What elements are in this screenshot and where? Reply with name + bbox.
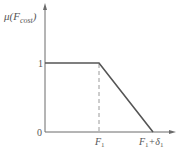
y-tick-1: 1 — [38, 58, 43, 69]
x-tick-f1-plus-delta1: F1+δ1 — [138, 136, 164, 149]
x-axis-arrow-icon — [169, 130, 176, 134]
membership-function-chart: μ(Fcost) 1 0 F1 F1+δ1 — [0, 0, 186, 153]
y-axis-label: μ(Fcost) — [3, 10, 37, 25]
chart-svg: μ(Fcost) 1 0 F1 F1+δ1 — [0, 0, 186, 153]
y-axis-arrow-icon — [43, 3, 47, 10]
x-tick-f1: F1 — [94, 136, 105, 149]
y-tick-0: 0 — [37, 127, 42, 138]
